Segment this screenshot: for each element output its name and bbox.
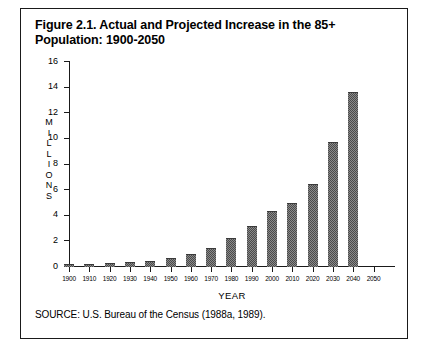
bar (186, 254, 196, 267)
x-axis-tick (333, 267, 334, 272)
y-axis-tick-label: 10 (38, 133, 58, 142)
y-axis-tick-label: 4 (38, 210, 58, 219)
x-axis-tick (374, 267, 375, 272)
x-axis-tick (252, 267, 253, 272)
x-axis-tick (69, 267, 70, 272)
x-axis-tick (150, 267, 151, 272)
y-axis-tick-label: 8 (38, 159, 58, 168)
y-axis-tick (64, 215, 70, 216)
bar (166, 258, 176, 267)
y-axis-tick (64, 61, 70, 62)
bar-chart-plot: MILLIONS 0246810121416 19001910192019301… (21, 9, 409, 340)
y-axis-tick-label: 12 (38, 108, 58, 117)
x-axis-tick (231, 267, 232, 272)
x-axis-tick (110, 267, 111, 272)
x-axis-tick (272, 267, 273, 272)
source-note: SOURCE: U.S. Bureau of the Census (1988a… (35, 309, 265, 320)
x-axis-tick (130, 267, 131, 272)
y-axis-tick (64, 240, 70, 241)
y-axis-tick-label: 14 (38, 82, 58, 91)
y-axis-tick-label: 16 (38, 57, 58, 66)
bar (206, 248, 216, 267)
bar (308, 184, 318, 267)
x-axis-tick-label: 2050 (361, 275, 387, 283)
x-axis-tick (89, 267, 90, 272)
x-axis-tick (353, 267, 354, 272)
y-axis-title-char: M (43, 117, 55, 128)
figure-panel: Figure 2.1. Actual and Projected Increas… (20, 8, 408, 339)
y-axis-tick (64, 138, 70, 139)
x-axis-tick (211, 267, 212, 272)
bar (247, 226, 257, 267)
y-axis-tick-label: 6 (38, 185, 58, 194)
x-axis-title: YEAR (69, 290, 395, 301)
y-axis-title-char: O (43, 170, 55, 181)
bar (226, 238, 236, 267)
bar (348, 92, 358, 267)
y-axis-tick (64, 87, 70, 88)
x-axis-tick (191, 267, 192, 272)
x-axis-tick (292, 267, 293, 272)
y-axis-tick-label: 0 (38, 262, 58, 271)
bar (287, 203, 297, 267)
x-axis-tick (313, 267, 314, 272)
bar (328, 142, 338, 267)
x-axis-tick (171, 267, 172, 272)
y-axis-tick-label: 2 (38, 236, 58, 245)
y-axis-tick (64, 189, 70, 190)
y-axis-tick (64, 112, 70, 113)
bar (267, 211, 277, 267)
y-axis-tick (64, 164, 70, 165)
